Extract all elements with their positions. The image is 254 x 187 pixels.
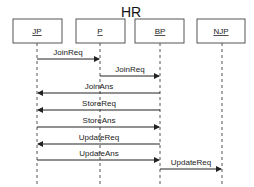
actor-label: P xyxy=(97,27,102,36)
actor-bp: BP xyxy=(135,19,184,43)
message-joinreq-p-bp: JoinReq xyxy=(100,65,159,76)
message-updatereq-bp-jp: UpdateReq xyxy=(38,133,160,144)
actor-label: BP xyxy=(155,27,166,36)
message-label: JoinReq xyxy=(115,65,144,74)
actor-label: JP xyxy=(32,27,41,36)
message-updateans-jp-bp: UpdateAns xyxy=(37,149,159,160)
message-label: StoreReq xyxy=(82,99,116,108)
message-label: UpdateReq xyxy=(171,158,211,167)
message-label: UpdateReq xyxy=(79,133,119,142)
message-joinans-bp-jp: JoinAns xyxy=(38,82,160,93)
actor-njp: NJP xyxy=(197,19,245,43)
message-label: JoinReq xyxy=(53,48,82,57)
actor-jp: JP xyxy=(13,19,62,43)
message-label: StoreAns xyxy=(83,116,116,125)
message-updatereq-bp-njp: UpdateReq xyxy=(160,158,221,169)
actor-p: P xyxy=(76,19,125,43)
message-label: JoinAns xyxy=(85,82,113,91)
message-joinreq-jp-p: JoinReq xyxy=(37,48,99,59)
message-storereq-bp-jp: StoreReq xyxy=(38,99,160,110)
diagram-title: HR xyxy=(121,4,141,20)
sequence-diagram: HR JP P BP NJP JoinReq JoinReq JoinAns S… xyxy=(0,0,254,187)
message-label: UpdateAns xyxy=(79,149,119,158)
actor-label: NJP xyxy=(213,27,228,36)
message-storeans-jp-bp: StoreAns xyxy=(37,116,159,127)
